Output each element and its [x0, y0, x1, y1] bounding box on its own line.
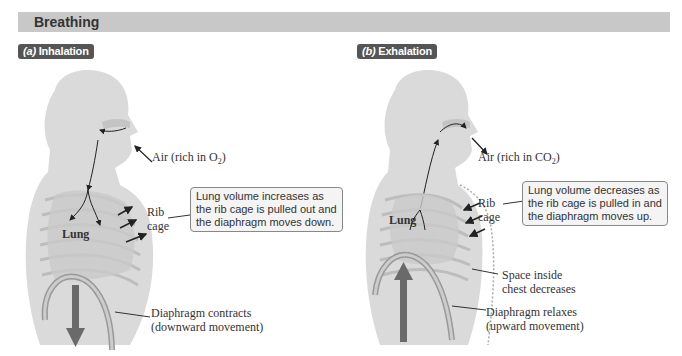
panel-a-rib-label: Ribcage: [147, 205, 169, 233]
panel-a-diaphragm-label: Diaphragm contracts(downward movement): [151, 306, 263, 334]
panel-b-diaphragm-label: Diaphragm relaxes(upward movement): [486, 305, 584, 333]
panel-a-letter: (a): [23, 45, 36, 57]
panel-b-label: (b) Exhalation: [357, 44, 437, 59]
panel-a-title: Inhalation: [39, 45, 89, 57]
panel-b-title: Exhalation: [378, 45, 432, 57]
panel-b-rib-label: Ribcage: [478, 196, 500, 224]
panel-b-lung-label: Lung: [389, 213, 416, 228]
panel-b-letter: (b): [362, 45, 375, 57]
panel-b-callout: Lung volume decreases as the rib cage is…: [522, 181, 668, 226]
section-title: Breathing: [34, 14, 99, 30]
panel-a-callout: Lung volume increases as the rib cage is…: [190, 187, 343, 232]
section-header: Breathing: [18, 12, 670, 32]
panel-a-label: (a) Inhalation: [18, 44, 94, 59]
panel-b-space-label: Space insidechest decreases: [502, 268, 576, 296]
panel-a-air-label: Air (rich in O2): [152, 150, 226, 169]
panel-a-lung-label: Lung: [62, 227, 89, 242]
panel-b-air-label: Air (rich in CO2): [478, 150, 560, 169]
air-in-arrow-icon: [135, 146, 152, 162]
